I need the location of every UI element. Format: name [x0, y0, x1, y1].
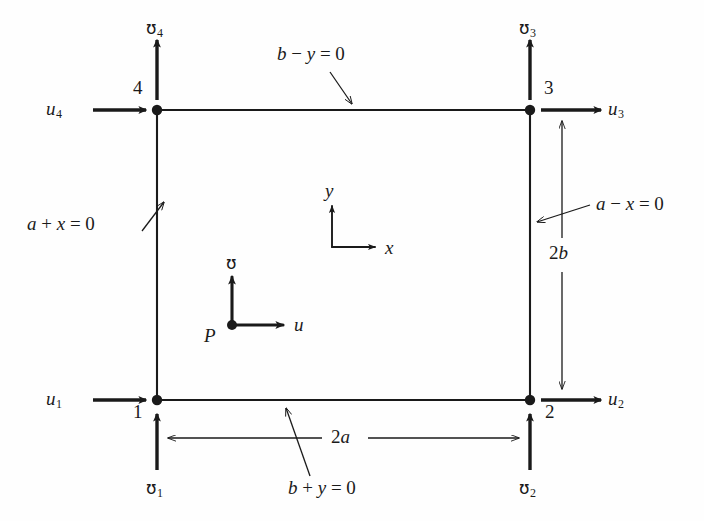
leader-line-left-equation	[142, 202, 164, 231]
element-outline	[157, 110, 530, 400]
dimension-label-2b: 2b	[549, 243, 568, 262]
figure-canvas: u1 u2 u3 u4 ʊ1 ʊ2 ʊ3 ʊ4 1 2 3 4 b − y = …	[0, 0, 704, 521]
node-number-4: 4	[133, 78, 143, 97]
dimension-label-2a: 2a	[331, 427, 350, 446]
dof-label-u3: u3	[608, 99, 624, 120]
node-dot-4	[152, 105, 162, 115]
leader-line-bottom-equation	[286, 408, 310, 476]
dof-label-v3: ʊ3	[519, 18, 536, 39]
node-dot-2	[525, 395, 535, 405]
edge-equation-bottom: b + y = 0	[288, 478, 356, 497]
dof-label-u2: u2	[608, 389, 624, 410]
node-number-2: 2	[545, 402, 555, 421]
local-axis-label-u: u	[294, 315, 304, 334]
node-number-1: 1	[133, 402, 143, 421]
leader-line-right-equation	[537, 205, 590, 222]
local-origin-dot-P	[227, 320, 237, 330]
node-dot-3	[525, 105, 535, 115]
edge-equation-top: b − y = 0	[277, 44, 345, 63]
edge-equation-left: a + x = 0	[27, 214, 95, 233]
axis-label-y: y	[325, 181, 333, 200]
local-point-label-P: P	[204, 326, 216, 345]
local-axis-label-v: ʊ	[226, 253, 237, 272]
diagram-vector-layer	[0, 0, 704, 521]
dof-label-v1: ʊ1	[146, 478, 163, 499]
local-axes-glyph	[232, 277, 283, 325]
node-markers	[152, 105, 535, 405]
dof-label-v2: ʊ2	[519, 478, 536, 499]
dof-label-u1: u1	[46, 389, 62, 410]
dof-label-v4: ʊ4	[146, 18, 163, 39]
dof-label-u4: u4	[46, 99, 62, 120]
node-number-3: 3	[544, 78, 554, 97]
global-axes-glyph	[332, 206, 375, 247]
axis-label-x: x	[385, 238, 393, 257]
edge-equation-right: a − x = 0	[596, 194, 664, 213]
leader-line-top-equation	[330, 72, 352, 104]
node-dot-1	[152, 395, 162, 405]
